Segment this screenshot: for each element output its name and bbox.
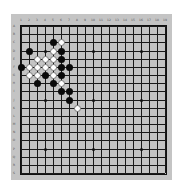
star-point (92, 148, 95, 151)
grid-line-vertical (149, 26, 150, 173)
column-label: 15 (130, 18, 136, 22)
row-label: H (11, 81, 17, 85)
black-stone (18, 64, 25, 71)
column-label: 8 (74, 18, 80, 22)
black-stone (34, 80, 41, 87)
black-stone (58, 64, 65, 71)
white-stone (50, 72, 57, 79)
star-point (140, 50, 143, 53)
black-stone (66, 88, 73, 95)
black-stone (50, 80, 57, 87)
row-label: F (11, 65, 17, 69)
grid-line-vertical (109, 26, 110, 173)
white-stone (34, 72, 41, 79)
column-label: 9 (82, 18, 88, 22)
row-label: D (11, 49, 17, 53)
column-label: 19 (162, 18, 168, 22)
column-label: 11 (98, 18, 104, 22)
black-stone (58, 48, 65, 55)
row-label: O (11, 138, 17, 142)
star-point (92, 99, 95, 102)
black-stone (58, 56, 65, 63)
grid-line-horizontal (21, 108, 165, 109)
white-stone (26, 64, 33, 71)
grid-line-horizontal (21, 132, 165, 133)
star-point (140, 99, 143, 102)
grid-line-horizontal (21, 173, 165, 174)
black-stone (66, 64, 73, 71)
white-stone (34, 64, 41, 71)
column-label: 18 (154, 18, 160, 22)
white-stone (26, 72, 33, 79)
white-stone (58, 39, 65, 46)
column-label: 1 (18, 18, 24, 22)
grid-line-vertical (125, 26, 126, 173)
row-label: B (11, 32, 17, 36)
column-label: 10 (90, 18, 96, 22)
star-point (44, 99, 47, 102)
row-label: E (11, 57, 17, 61)
column-label: 16 (138, 18, 144, 22)
grid-line-vertical (117, 26, 118, 173)
row-label: G (11, 73, 17, 77)
white-stone (58, 80, 65, 87)
star-point (44, 50, 47, 53)
grid-line-vertical (165, 26, 166, 173)
row-label: I (11, 89, 17, 93)
row-label: L (11, 114, 17, 118)
grid-line-horizontal (21, 116, 165, 117)
white-stone (34, 56, 41, 63)
column-label: 6 (58, 18, 64, 22)
white-stone (50, 56, 57, 63)
column-label: 14 (122, 18, 128, 22)
white-stone (42, 64, 49, 71)
row-label: J (11, 98, 17, 102)
star-point (44, 148, 47, 151)
column-label: 13 (114, 18, 120, 22)
row-label: C (11, 40, 17, 44)
column-label: 4 (42, 18, 48, 22)
column-label: 12 (106, 18, 112, 22)
column-label: 17 (146, 18, 152, 22)
row-label: R (11, 163, 17, 167)
black-stone (58, 88, 65, 95)
column-label: 7 (66, 18, 72, 22)
star-point (140, 148, 143, 151)
row-label: S (11, 171, 17, 175)
grid-line-vertical (133, 26, 134, 173)
white-stone (74, 105, 81, 112)
star-point (92, 50, 95, 53)
black-stone (66, 97, 73, 104)
white-stone (50, 64, 57, 71)
row-label: A (11, 24, 17, 28)
column-label: 2 (26, 18, 32, 22)
row-label: M (11, 122, 17, 126)
grid-line-horizontal (21, 140, 165, 141)
white-stone (50, 48, 57, 55)
column-label: 3 (34, 18, 40, 22)
grid-line-horizontal (21, 157, 165, 158)
black-stone (26, 48, 33, 55)
black-stone (50, 39, 57, 46)
row-label: K (11, 106, 17, 110)
row-label: N (11, 130, 17, 134)
black-stone (42, 72, 49, 79)
grid-line-vertical (157, 26, 158, 173)
black-stone (58, 72, 65, 79)
grid-line-horizontal (21, 165, 165, 166)
board-grid[interactable] (21, 26, 165, 173)
grid-line-horizontal (21, 124, 165, 125)
row-label: P (11, 147, 17, 151)
row-label: Q (11, 155, 17, 159)
grid-line-vertical (101, 26, 102, 173)
white-stone (42, 56, 49, 63)
column-label: 5 (50, 18, 56, 22)
